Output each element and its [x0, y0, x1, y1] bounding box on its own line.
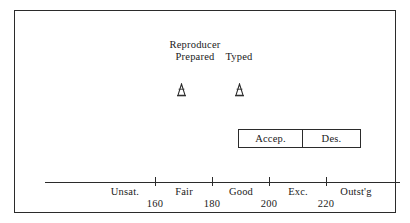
axis-category-unsat: Unsat.	[95, 186, 155, 197]
scale-axis-line	[45, 182, 400, 183]
axis-category-fair: Fair	[154, 186, 214, 197]
axis-category-outstg: Outst'g	[326, 186, 386, 197]
axis-tick-label-200: 200	[244, 198, 294, 209]
triangle-marker-reproducer-prepared-icon	[176, 83, 187, 97]
marker-label-typed: Typed	[199, 51, 279, 63]
figure-frame: Reproducer Prepared Typed Accep. Des.	[14, 10, 396, 213]
range-box: Accep. Des.	[238, 129, 361, 148]
axis-tick-160	[155, 177, 156, 186]
axis-tick-label-180: 180	[187, 198, 237, 209]
range-cell-acceptable: Accep.	[239, 130, 302, 147]
axis-tick-200	[269, 177, 270, 186]
triangle-marker-typed-icon	[234, 83, 245, 97]
axis-tick-label-220: 220	[301, 198, 351, 209]
axis-category-good: Good	[211, 186, 271, 197]
axis-tick-180	[212, 177, 213, 186]
rating-scale-figure: Reproducer Prepared Typed Accep. Des.	[0, 0, 410, 223]
range-cell-desirable: Des.	[302, 130, 360, 147]
axis-category-exc: Exc.	[268, 186, 328, 197]
axis-tick-220	[326, 177, 327, 186]
axis-tick-label-160: 160	[130, 198, 180, 209]
